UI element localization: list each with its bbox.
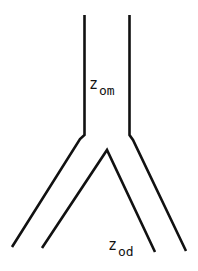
daughter-vessel-label: zod [108, 237, 134, 253]
daughter-label-subscript: od [118, 244, 134, 259]
inner-bifurcation-wall [42, 150, 155, 252]
daughter-label-main: z [108, 236, 117, 254]
parent-label-subscript: om [99, 83, 115, 98]
bifurcation-diagram [0, 0, 198, 271]
left-outer-wall [12, 15, 85, 247]
parent-vessel-label: zom [89, 76, 115, 92]
parent-label-main: z [89, 75, 98, 93]
